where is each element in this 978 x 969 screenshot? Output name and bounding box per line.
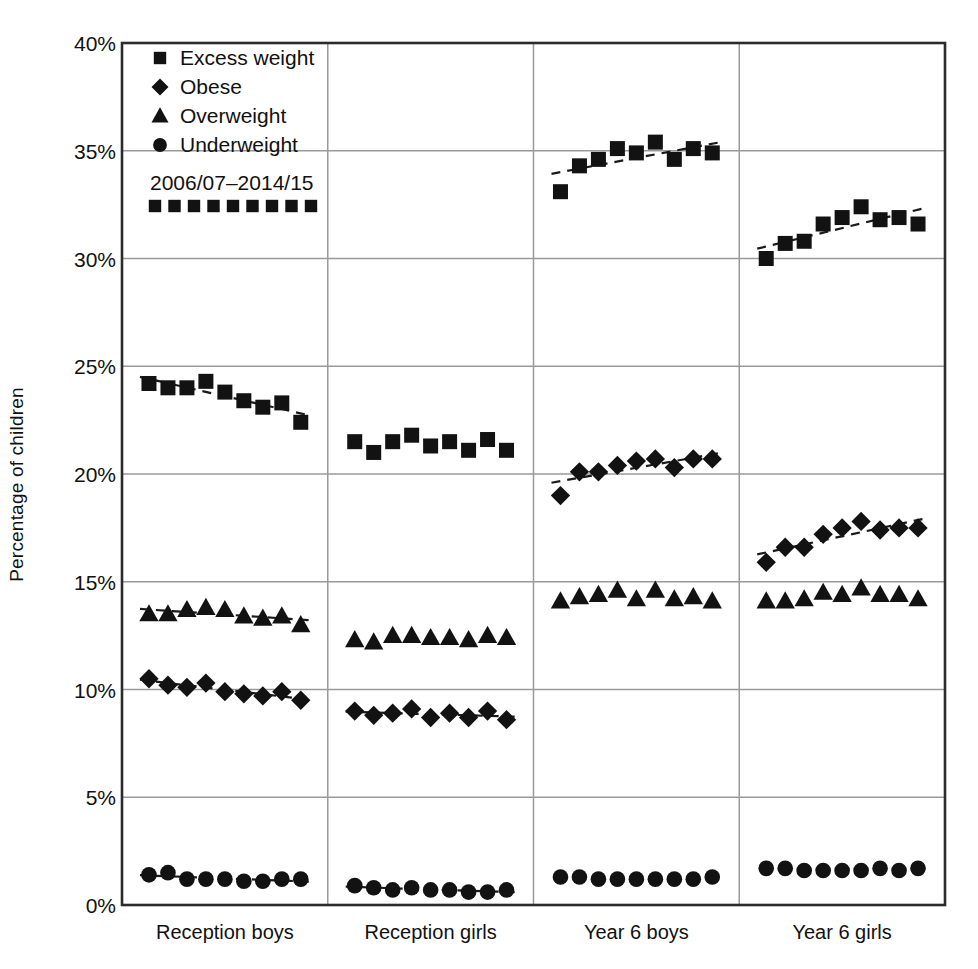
data-point-square xyxy=(160,380,175,395)
data-point-square xyxy=(480,432,495,447)
data-point-square xyxy=(797,234,812,249)
data-point-square xyxy=(816,217,831,232)
data-point-circle xyxy=(198,871,214,887)
data-point-triangle xyxy=(196,598,215,615)
data-point-circle xyxy=(293,871,309,887)
data-point-triangle xyxy=(158,604,177,621)
data-point-square xyxy=(911,217,926,232)
data-point-circle xyxy=(758,861,774,877)
data-point-square xyxy=(461,443,476,458)
y-tick-label: 15% xyxy=(54,571,116,595)
data-point-triangle xyxy=(551,591,570,608)
data-point-triangle xyxy=(684,587,703,604)
year-swatch xyxy=(285,200,297,212)
data-point-triangle xyxy=(851,578,870,595)
data-point-triangle xyxy=(139,604,158,621)
data-point-diamond xyxy=(703,449,722,468)
data-point-square xyxy=(705,145,720,160)
data-point-diamond xyxy=(158,676,177,695)
data-point-diamond xyxy=(459,708,478,727)
year-swatch xyxy=(227,200,239,212)
y-tick-label: 5% xyxy=(54,786,116,810)
data-point-circle xyxy=(423,882,439,898)
data-point-square xyxy=(648,135,663,150)
data-point-square xyxy=(293,415,308,430)
data-point-square xyxy=(141,376,156,391)
legend-label: Obese xyxy=(180,75,242,98)
year-swatch xyxy=(168,200,180,212)
series-range-label: 2006/07–2014/15 xyxy=(150,171,314,194)
data-point-square xyxy=(274,395,289,410)
data-point-diamond xyxy=(908,518,927,537)
data-point-triangle xyxy=(870,585,889,602)
data-point-square xyxy=(198,374,213,389)
data-point-triangle xyxy=(795,589,814,606)
data-point-diamond xyxy=(832,518,851,537)
data-point-circle xyxy=(891,863,907,879)
data-point-triangle xyxy=(497,628,516,645)
data-point-triangle xyxy=(215,600,234,617)
data-point-circle xyxy=(553,869,569,885)
y-axis-tick-labels: 0%5%10%15%20%25%30%35%40% xyxy=(46,0,116,969)
data-point-diamond xyxy=(383,704,402,723)
legend-marker-square xyxy=(154,52,166,64)
data-point-circle xyxy=(461,884,477,900)
x-tick-label: Year 6 girls xyxy=(739,921,945,944)
data-point-circle xyxy=(366,880,382,896)
legend-marker-triangle xyxy=(151,107,168,122)
data-point-circle xyxy=(572,869,588,885)
data-point-triangle xyxy=(478,626,497,643)
data-point-square xyxy=(236,393,251,408)
data-point-circle xyxy=(217,871,233,887)
data-point-circle xyxy=(404,880,420,896)
data-point-triangle xyxy=(345,630,364,647)
legend-label: Excess weight xyxy=(180,46,314,69)
y-tick-label: 10% xyxy=(54,679,116,703)
data-point-triangle xyxy=(589,585,608,602)
data-point-triangle xyxy=(776,591,795,608)
data-point-circle xyxy=(910,861,926,877)
data-point-diamond xyxy=(627,451,646,470)
y-tick-label: 40% xyxy=(54,32,116,56)
data-point-circle xyxy=(274,871,290,887)
legend-marker-diamond xyxy=(151,78,168,95)
year-swatch xyxy=(207,200,219,212)
data-point-circle xyxy=(685,871,701,887)
year-swatch xyxy=(246,200,258,212)
data-point-triangle xyxy=(665,589,684,606)
data-point-square xyxy=(217,385,232,400)
data-point-triangle xyxy=(608,581,627,598)
data-point-diamond xyxy=(776,538,795,557)
data-point-triangle xyxy=(627,589,646,606)
data-point-square xyxy=(423,438,438,453)
data-point-square xyxy=(686,141,701,156)
data-point-square xyxy=(255,400,270,415)
data-point-diamond xyxy=(813,525,832,544)
data-point-circle xyxy=(160,865,176,881)
data-point-square xyxy=(835,210,850,225)
data-point-triangle xyxy=(703,591,722,608)
data-point-square xyxy=(629,145,644,160)
data-point-diamond xyxy=(402,699,421,718)
year-swatch xyxy=(149,200,161,212)
data-point-circle xyxy=(796,863,812,879)
year-swatch xyxy=(188,200,200,212)
data-point-diamond xyxy=(889,518,908,537)
data-point-square xyxy=(892,210,907,225)
data-point-triangle xyxy=(813,583,832,600)
x-tick-label: Reception girls xyxy=(328,921,534,944)
data-point-triangle xyxy=(291,615,310,632)
data-point-circle xyxy=(777,861,793,877)
data-point-square xyxy=(385,434,400,449)
data-point-diamond xyxy=(215,682,234,701)
data-point-diamond xyxy=(551,486,570,505)
data-point-square xyxy=(404,428,419,443)
data-point-circle xyxy=(141,867,157,883)
y-tick-label: 25% xyxy=(54,355,116,379)
data-point-triangle xyxy=(889,585,908,602)
data-point-triangle xyxy=(908,589,927,606)
data-point-triangle xyxy=(177,600,196,617)
data-point-square xyxy=(179,380,194,395)
data-point-circle xyxy=(347,878,363,894)
data-point-circle xyxy=(179,871,195,887)
